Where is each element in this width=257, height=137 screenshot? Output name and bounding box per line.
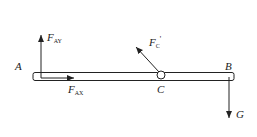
- pin-c: [157, 71, 165, 79]
- point-c-label: C: [157, 83, 165, 95]
- point-b-label: B: [225, 60, 232, 72]
- force-fc-label: FC': [148, 35, 162, 49]
- force-fay-label: FAY: [46, 31, 63, 44]
- force-fax-label: FAX: [67, 83, 84, 96]
- force-g-label: G: [236, 108, 244, 120]
- free-body-diagram: FAY FAX A C FC' B G: [0, 0, 257, 137]
- beam: [33, 73, 234, 81]
- point-a-label: A: [14, 60, 22, 72]
- force-fc-arrow: [136, 47, 159, 72]
